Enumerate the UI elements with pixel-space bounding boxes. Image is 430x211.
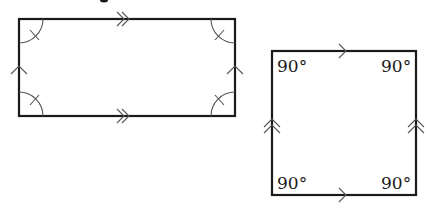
- rectangle-angle-bottom-right-icon: [211, 92, 235, 116]
- rectangle-angle-bottom-left-icon: [19, 92, 43, 116]
- square-angle-label-top-right: 90°: [381, 56, 411, 76]
- rectangle-angle-top-left-icon: [19, 19, 43, 43]
- square-angle-label-top-left: 90°: [277, 56, 307, 76]
- square-shape: 90° 90° 90° 90°: [264, 44, 424, 202]
- rectangle-outline: [19, 19, 235, 116]
- geometry-diagram: 90° 90° 90° 90°: [0, 0, 430, 211]
- rectangle-angle-top-right-icon: [211, 19, 235, 43]
- rectangle-shape: [11, 12, 243, 123]
- cut-off-heading-fragment: [100, 0, 108, 3]
- square-angle-label-bottom-left: 90°: [277, 173, 307, 193]
- square-angle-label-bottom-right: 90°: [381, 173, 411, 193]
